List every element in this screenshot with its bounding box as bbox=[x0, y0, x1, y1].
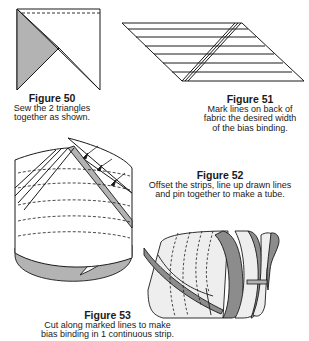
figure-50-caption: Figure 50 Sew the 2 triangles together a… bbox=[2, 93, 102, 123]
figure-53-diagram bbox=[143, 230, 283, 320]
figure-51-desc-line: of the bias binding. bbox=[195, 124, 305, 133]
figure-50-desc-line: together as shown. bbox=[2, 113, 102, 122]
figure-50-diagram bbox=[0, 0, 100, 95]
figure-51-caption: Figure 51 Mark lines on back of fabric t… bbox=[195, 94, 305, 133]
figure-52-desc-line: and pin together to make a tube. bbox=[130, 190, 309, 199]
figure-52-caption: Figure 52 Offset the strips, line up dra… bbox=[130, 170, 309, 200]
figure-53-caption: Figure 53 Cut along marked lines to make… bbox=[30, 310, 185, 340]
figure-51-diagram bbox=[120, 0, 309, 85]
figure-53-desc-line: bias binding in 1 continuous strip. bbox=[30, 330, 185, 339]
figure-52-diagram bbox=[10, 148, 140, 263]
